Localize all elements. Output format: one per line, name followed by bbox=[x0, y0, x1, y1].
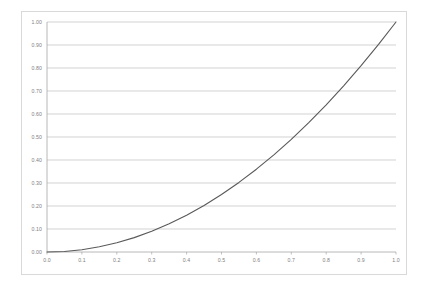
x-tick-label: 0.4 bbox=[177, 257, 197, 263]
x-tick-label: 0.1 bbox=[72, 257, 92, 263]
y-tick-label: 0.00 bbox=[20, 249, 42, 255]
y-tick-label: 0.70 bbox=[20, 88, 42, 94]
x-tick-label: 0.7 bbox=[281, 257, 301, 263]
y-tick-label: 0.20 bbox=[20, 203, 42, 209]
x-tick-label: 0.3 bbox=[142, 257, 162, 263]
x-tick-label: 0.6 bbox=[246, 257, 266, 263]
y-tick-label: 0.90 bbox=[20, 42, 42, 48]
chart-container: 1.000.900.800.700.600.500.400.300.200.10… bbox=[0, 0, 427, 287]
y-tick-label: 0.30 bbox=[20, 180, 42, 186]
y-tick-label: 0.60 bbox=[20, 111, 42, 117]
y-tick-label: 1.00 bbox=[20, 19, 42, 25]
x-tick-label: 0.8 bbox=[316, 257, 336, 263]
x-tick-label: 0.2 bbox=[107, 257, 127, 263]
x-tick-label: 0.5 bbox=[212, 257, 232, 263]
gridlines bbox=[47, 22, 396, 229]
y-tick-label: 0.40 bbox=[20, 157, 42, 163]
x-tick-label: 1.0 bbox=[386, 257, 406, 263]
y-tick-label: 0.10 bbox=[20, 226, 42, 232]
x-tick-label: 0.0 bbox=[37, 257, 57, 263]
y-tick-label: 0.80 bbox=[20, 65, 42, 71]
x-tick-label: 0.9 bbox=[351, 257, 371, 263]
plot-area bbox=[0, 0, 427, 287]
y-tick-label: 0.50 bbox=[20, 134, 42, 140]
